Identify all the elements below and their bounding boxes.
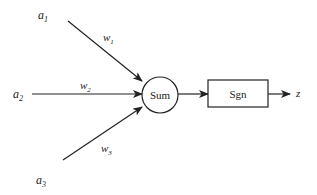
input-a3-subscript: 3 — [41, 180, 46, 189]
input-a1-subscript: 1 — [44, 15, 48, 24]
svg-text:a3: a3 — [36, 173, 46, 189]
weight-w3: w3 — [101, 142, 112, 157]
output-z-label: z — [295, 87, 301, 99]
sum-node-label: Sum — [150, 89, 171, 101]
weight-w1: w1 — [103, 31, 114, 46]
input-a3: a3 — [36, 173, 46, 189]
svg-text:a2: a2 — [13, 87, 23, 103]
edge-a1-to-sum — [68, 21, 142, 81]
svg-text:a1: a1 — [38, 8, 48, 24]
input-a1: a1 — [38, 8, 48, 24]
weight-w2: w2 — [80, 79, 91, 94]
sum-node: Sum — [142, 77, 178, 113]
perceptron-diagram: a1 w1 a2 w2 a3 w3 Sum Sgn z — [0, 0, 317, 195]
sgn-node-label: Sgn — [229, 88, 247, 100]
input-a2-subscript: 2 — [19, 94, 23, 103]
sgn-node: Sgn — [208, 80, 268, 107]
input-a2: a2 — [13, 87, 23, 103]
